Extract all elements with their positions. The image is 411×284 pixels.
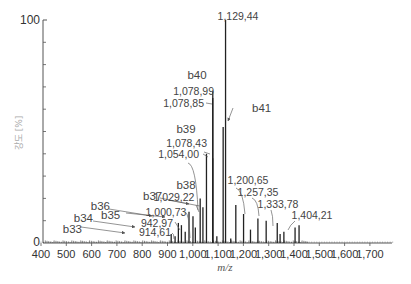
x-tick-label: 500 (57, 248, 75, 260)
x-tick-labels: 4005006007008009001,0001,1001,2001,3001,… (32, 248, 384, 260)
x-tick-label: 1,500 (306, 248, 334, 260)
ion-b35: b35 (101, 209, 120, 221)
label-1200-65: 1,200,65 (228, 174, 269, 186)
x-tick-label: 1,000 (179, 248, 207, 260)
x-tick-label: 1,300 (255, 248, 283, 260)
y-tick-label-0: 0 (33, 235, 40, 249)
x-tick-label: 700 (108, 248, 126, 260)
label-914-61: 914,61 (139, 226, 171, 238)
label-1404-21: 1,404,21 (292, 209, 333, 221)
y-tick-label-100: 100 (20, 13, 40, 27)
mass-spectrum-chart: 100 0 4005006007008009001,0001,1001,2001… (0, 0, 411, 284)
x-tick-label: 800 (133, 248, 151, 260)
label-1078-85: 1,078,85 (163, 97, 204, 109)
ion-b41: b41 (252, 102, 271, 114)
x-tick-label: 900 (158, 248, 176, 260)
x-tick-label: 1,700 (356, 248, 384, 260)
label-1257-35: 1,257,35 (238, 186, 279, 198)
x-tick-label: 1,600 (331, 248, 359, 260)
ion-b40: b40 (187, 69, 206, 81)
label-1054-00: 1,054,00 (158, 148, 199, 160)
ion-b39: b39 (176, 123, 195, 135)
label-1129-44: 1,129,44 (218, 10, 259, 22)
x-axis-title: m/z (217, 261, 233, 273)
y-axis-title: 강도 [%] (14, 116, 24, 150)
label-1078-99: 1,078,99 (173, 85, 214, 97)
ion-b38: b38 (176, 179, 195, 191)
x-tick-label: 600 (82, 248, 100, 260)
x-tick-label: 1,200 (230, 248, 258, 260)
x-tick-label: 1,400 (280, 248, 308, 260)
x-tick-label: 1,100 (204, 248, 232, 260)
ion-b37: b37 (143, 190, 162, 202)
x-tick-label: 400 (32, 248, 50, 260)
axes (41, 20, 393, 246)
ion-b33: b33 (63, 223, 82, 235)
